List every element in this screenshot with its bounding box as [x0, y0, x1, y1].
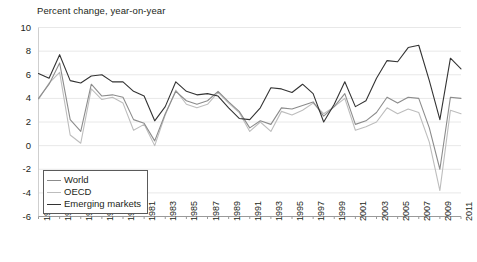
legend-label: Emerging markets: [64, 199, 141, 209]
x-tick-label: 2001: [359, 200, 368, 220]
x-tick-label: 2009: [444, 200, 453, 220]
series-line: [39, 63, 462, 169]
y-tick-label: -2: [3, 164, 31, 174]
x-tick-label: 1997: [317, 200, 326, 220]
y-tick-label: 6: [3, 70, 31, 80]
y-tick-label: 0: [3, 141, 31, 151]
x-tick-label: 1999: [338, 200, 347, 220]
x-tick-label: 1995: [296, 200, 305, 220]
y-tick-label: 10: [3, 23, 31, 33]
series-lines: [39, 45, 462, 190]
x-tick-label: 2005: [402, 200, 411, 220]
x-tick-label: 1989: [233, 200, 242, 220]
x-tick-label: 2011: [465, 201, 474, 220]
x-tick-label: 2007: [423, 200, 432, 220]
chart-plot-area: [0, 0, 477, 262]
y-tick-label: 2: [3, 117, 31, 127]
x-tick-label: 1981: [148, 200, 157, 220]
x-tick-label: 1993: [275, 200, 284, 220]
legend-item: Emerging markets: [47, 198, 141, 210]
x-tick-label: 1991: [254, 200, 263, 220]
y-tick-label: -6: [3, 212, 31, 222]
x-tick-label: 1983: [169, 200, 178, 220]
legend-line-swatch: [47, 204, 61, 205]
x-tick-label: 2003: [381, 200, 390, 220]
legend-item: World: [47, 174, 141, 186]
legend-item: OECD: [47, 186, 141, 198]
legend-label: OECD: [64, 187, 91, 197]
series-line: [39, 45, 462, 122]
x-tick-label: 1987: [212, 200, 221, 220]
chart-container: Percent change, year-on-year 1086420-2-4…: [0, 0, 477, 262]
y-tick-label: 4: [3, 93, 31, 103]
legend-line-swatch: [47, 192, 61, 193]
x-tick-label: 1985: [190, 200, 199, 220]
y-tick-label: 8: [3, 46, 31, 56]
y-tick-label: -4: [3, 188, 31, 198]
chart-legend: WorldOECDEmerging markets: [43, 170, 148, 214]
legend-line-swatch: [47, 180, 61, 181]
legend-label: World: [64, 175, 89, 185]
